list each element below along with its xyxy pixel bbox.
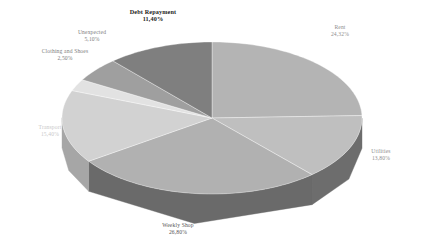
- slice-label-name: Clothing and Shoes: [13, 48, 117, 55]
- slice-label-name: Utilities: [340, 148, 422, 155]
- slice-label-percent: 13,80%: [340, 155, 422, 162]
- slice-label-utilities: Utilities 13,80%: [340, 148, 422, 161]
- slice-label-name: Weekly Shop: [130, 222, 226, 229]
- slice-label-percent: 5,10%: [54, 36, 130, 43]
- slice-label-clothing-and-shoes: Clothing and Shoes 2,50%: [13, 48, 117, 61]
- slice-label-weekly-shop: Weekly Shop 26,80%: [130, 222, 226, 235]
- slice-label-unexpected: Unexpected 5,10%: [54, 29, 130, 42]
- slice-label-rent: Rent 24,32%: [296, 24, 384, 37]
- slice-label-name: Unexpected: [54, 29, 130, 36]
- slice-label-name: Rent: [296, 24, 384, 31]
- slice-label-percent: 15,40%: [16, 131, 84, 138]
- slice-label-name: Debt Repayment: [107, 8, 199, 15]
- pie-chart-figure: Debt Repayment 11,40% Rent 24,32% Utilit…: [0, 0, 423, 246]
- slice-label-name: Transport: [16, 124, 84, 131]
- slice-label-percent: 26,80%: [130, 229, 226, 236]
- pie-slice-tops: [62, 42, 362, 194]
- pie-slice-rent: [212, 42, 362, 118]
- slice-label-transport: Transport 15,40%: [16, 124, 84, 137]
- slice-label-percent: 24,32%: [296, 31, 384, 38]
- slice-label-percent: 11,40%: [107, 15, 199, 22]
- slice-label-percent: 2,50%: [13, 55, 117, 62]
- slice-label-debt-repayment: Debt Repayment 11,40%: [107, 8, 199, 23]
